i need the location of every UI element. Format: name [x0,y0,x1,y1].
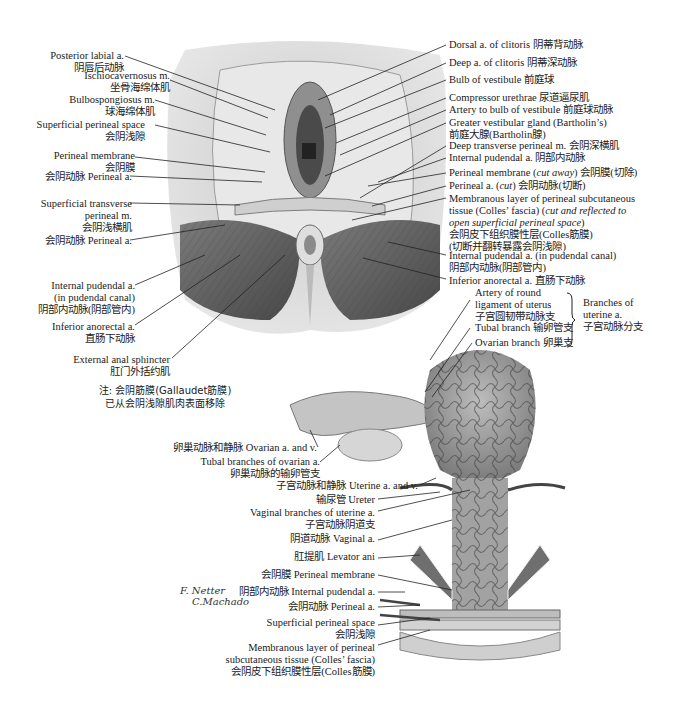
label-en: Ischiocavernosus m. [84,70,170,81]
label-deep-a-clitoris: Deep a. of clitoris 阴蒂深动脉 [449,57,577,69]
text-part: 会阴皮下组织膜性层(Colles筋膜) [231,666,375,677]
label-branches-of-uterine-a: Branches ofuterine a.子宫动脉分支 [583,297,643,333]
label-internal-pudendal-a-right: Internal pudendal a. 阴部内动脉 [449,152,585,164]
label-internal-pudendal-canal-right: Internal pudendal a. (in pudendal canal)… [449,250,616,274]
label-zh: 会阴浅隙 [105,131,145,142]
label-artery-round-ligament: Artery of roundligament of uterus子宫圆韧带动脉… [475,287,555,323]
label-en: Inferior anorectal a. [52,321,135,332]
note-line: 注: 会阴筋膜(Gallaudet筋膜) [99,385,232,396]
text-part: Membranous layer of perineal [248,642,375,653]
label-superficial-perineal-space: Superficial perineal space会阴浅隙 [37,119,145,143]
label-inferior-anorectal-a-right: Inferior anorectal a. 直肠下动脉 [449,275,585,287]
label-ovarian-a-and-v: 卵巢动脉和静脉 Ovarian a. and v. [173,442,317,454]
label-zh: 会阴浅横肌 [82,222,132,233]
text-part: 会阴皮下组织膜性层(Colles筋膜) [449,229,593,240]
label-en: Internal pudendal a. (in pudendal canal) [449,250,616,261]
text-part: Perineal membrane ( [449,167,536,178]
brace-icon [566,292,576,348]
label-inferior-anorectal-a: Inferior anorectal a.直肠下动脉 [52,321,135,345]
label-greater-vestibular-gland: Greater vestibular gland (Bartholin’s)前庭… [449,117,607,141]
text-part: Branches of [583,297,633,308]
label-en: Internal pudendal a. [51,280,135,291]
label-en2: (in pudendal canal) [54,292,135,303]
note-line: 已从会阴浅隙肌肉表面移除 [105,398,225,409]
label-perineal-a-cut: Perineal a. (cut) 会阴动脉(切断) [449,180,585,192]
label-perineal-membrane-cut: Perineal membrane (cut away) 会阴膜(切除) [449,167,637,179]
label-artery-to-bulb: Artery to bulb of vestibule 前庭球动脉 [449,104,613,116]
text-part: ) [581,217,585,228]
label-perineal-a-1: 会阴动脉 Perineal a. [45,171,132,183]
label-en: Posterior labial a. [50,50,124,61]
label-uterine-a-and-v: 子宫动脉和静脉 Uterine a. and v. [276,480,418,492]
gallaudet-fascia-note: 注: 会阴筋膜(Gallaudet筋膜)已从会阴浅隙肌肉表面移除 [80,384,250,410]
label-en: Superficial transverse [41,198,132,209]
label-perineal-membrane-bottom: 会阴膜 Perineal membrane [261,569,375,581]
text-part: Perineal a. ( [449,180,499,191]
label-superficial-transverse-perineal: Superficial transverseperineal m.会阴浅横肌 [41,198,132,234]
label-deep-transverse-perineal: Deep transverse perineal m. 会阴深横肌 [449,140,619,152]
text-part: ) 会阴动脉(切断) [512,180,585,191]
label-zh: 阴部内动脉(阴部管内) [38,304,135,315]
label-zh: 直肠下动脉 [85,333,135,344]
label-en: Perineal membrane [54,150,135,161]
label-perineal-a-2: 会阴动脉 Perineal a. [45,235,132,247]
label-external-anal-sphincter: External anal sphincter肛门外括约肌 [73,354,170,378]
label-compressor-urethrae: Compressor urethrae 尿道逼尿肌 [449,92,589,104]
label-levator-ani: 肛提肌 Levator ani [294,551,375,563]
text-italic: open superficial perineal space [449,217,581,228]
text-italic: cut and reflected to [545,205,626,216]
label-en: Superficial perineal space [37,119,145,130]
label-en: 会阴动脉 Perineal a. [45,235,132,246]
label-colles-fascia-cut: Membranous layer of perineal subcutaneou… [449,193,635,253]
label-vaginal-a: 阴道动脉 Vaginal a. [290,533,375,545]
text-part: uterine a. [583,309,622,320]
text-italic: cut [499,180,512,191]
text-part: 子宫圆韧带动脉支 [475,311,555,322]
label-internal-pudendal-a: Internal pudendal a.(in pudendal canal)阴… [38,280,135,316]
label-perineal-a-bottom: 会阴动脉 Perineal a. [288,601,375,613]
signature-line: C.Machado [192,596,249,607]
text-part: subcutaneous tissue (Colles’ fascia) [226,654,375,665]
label-zh: 卵巢动脉的输卵管支 [230,468,320,479]
label-en: External anal sphincter [73,354,170,365]
label-en: 会阴动脉 Perineal a. [45,171,132,182]
label-en: Superficial perineal space [267,617,375,628]
artist-signature: F. NetterC.Machado [180,585,249,607]
label-ureter: 输尿管 Ureter [316,494,375,506]
label-zh: 球海绵体肌 [105,106,155,117]
text-part: 子宫动脉分支 [583,321,643,332]
label-dorsal-a-clitoris: Dorsal a. of clitoris 阴蒂背动脉 [449,39,583,51]
label-tubal-branch: Tubal branch 输卵管支 [475,322,573,334]
label-internal-pudendal-bottom: 阴部内动脉 Internal pudendal a. [239,586,375,598]
label-zh: 阴部内动脉(阴部管内) [449,262,546,273]
text-part: tissue (Colles’ fascia) ( [449,205,545,216]
label-en2: perineal m. [85,210,132,221]
text-italic: cut away [536,167,574,178]
label-ovarian-branch: Ovarian branch 卵巢支 [475,337,573,349]
label-en: Greater vestibular gland (Bartholin’s) [449,117,607,128]
signature-line: F. Netter [180,585,225,596]
perineum-illustration [167,41,446,334]
label-en: Tubal branches of ovarian a. [201,456,320,467]
label-superficial-perineal-space-bottom: Superficial perineal space会阴浅隙 [267,617,375,641]
label-tubal-branches-ovarian: Tubal branches of ovarian a.卵巢动脉的输卵管支 [201,456,320,480]
text-part: Artery of round [475,287,541,298]
label-bulb-of-vestibule: Bulb of vestibule 前庭球 [449,74,554,86]
label-en: Vaginal branches of uterine a. [250,507,375,518]
label-colles-fascia-bottom: Membranous layer of perinealsubcutaneous… [226,642,375,678]
label-bulbospongiosus: Bulbospongiosus m.球海绵体肌 [69,94,155,118]
text-part: Membranous layer of perineal subcutaneou… [449,193,635,204]
text-part: ligament of uterus [475,299,551,310]
label-zh: 前庭大腺(Bartholin腺) [449,129,546,140]
label-zh: 子宫动脉阴道支 [305,519,375,530]
label-zh: 会阴浅隙 [335,629,375,640]
label-ischiocavernosus: Ischiocavernosus m.坐骨海绵体肌 [84,70,170,94]
label-vaginal-branches-uterine: Vaginal branches of uterine a.子宫动脉阴道支 [250,507,375,531]
label-en: Bulbospongiosus m. [69,94,155,105]
label-zh: 坐骨海绵体肌 [110,82,170,93]
label-zh: 肛门外括约肌 [110,366,170,377]
text-part: ) 会阴膜(切除) [574,167,637,178]
